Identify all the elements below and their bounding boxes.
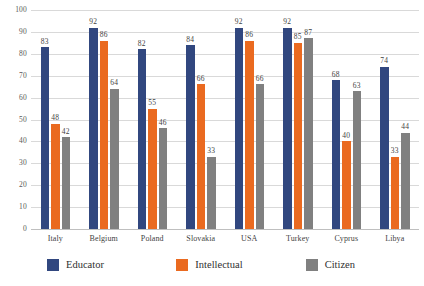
bar-column[interactable]: 92	[283, 10, 292, 229]
bar-column[interactable]: 46	[159, 10, 168, 229]
bar-column[interactable]: 85	[294, 10, 303, 229]
bar-value-label: 66	[197, 75, 205, 83]
bar-column[interactable]: 86	[245, 10, 254, 229]
bar-value-label: 86	[100, 31, 108, 39]
x-tick-label: Libya	[371, 231, 420, 247]
y-tick-label: 60	[19, 94, 27, 102]
bar-citizen[interactable]	[62, 137, 71, 229]
bar-value-label: 85	[294, 33, 302, 41]
bar-column[interactable]: 87	[304, 10, 313, 229]
bar-group: 684063	[322, 10, 371, 229]
bar-value-label: 40	[342, 132, 350, 140]
bar-citizen[interactable]	[353, 91, 362, 229]
bar-column[interactable]: 83	[41, 10, 50, 229]
bar-intellectual[interactable]	[100, 41, 109, 229]
bar-group-bars: 834842	[31, 10, 80, 229]
y-tick-label: 50	[19, 116, 27, 124]
bar-citizen[interactable]	[159, 128, 168, 229]
bar-column[interactable]: 55	[148, 10, 157, 229]
bar-column[interactable]: 42	[62, 10, 71, 229]
bar-column[interactable]: 84	[186, 10, 195, 229]
bar-educator[interactable]	[89, 28, 98, 229]
bar-column[interactable]: 66	[256, 10, 265, 229]
y-tick-label: 30	[19, 160, 27, 168]
bar-educator[interactable]	[283, 28, 292, 229]
bar-citizen[interactable]	[401, 133, 410, 229]
bar-column[interactable]: 33	[207, 10, 216, 229]
legend-swatch-icon	[47, 259, 59, 271]
bar-intellectual[interactable]	[294, 43, 303, 229]
bar-column[interactable]: 33	[391, 10, 400, 229]
y-tick-label: 20	[19, 181, 27, 189]
legend-item-citizen[interactable]: Citizen	[290, 259, 419, 271]
x-tick-label: USA	[225, 231, 274, 247]
y-tick-label: 40	[19, 138, 27, 146]
bar-value-label: 42	[62, 128, 70, 136]
bar-value-label: 84	[186, 36, 194, 44]
y-tick-label: 70	[19, 72, 27, 80]
bar-group: 834842	[31, 10, 80, 229]
x-tick-label: Slovakia	[177, 231, 226, 247]
bar-group: 928664	[80, 10, 129, 229]
bar-column[interactable]: 92	[89, 10, 98, 229]
y-axis: 1009080706050403020100	[0, 10, 27, 229]
x-tick-label: Poland	[128, 231, 177, 247]
bar-value-label: 92	[235, 18, 243, 26]
bar-value-label: 87	[304, 29, 312, 37]
bar-citizen[interactable]	[256, 84, 265, 229]
bar-group-bars: 684063	[322, 10, 371, 229]
bar-value-label: 74	[380, 57, 388, 65]
bar-value-label: 44	[401, 123, 409, 131]
bar-group: 846633	[177, 10, 226, 229]
legend-label: Citizen	[325, 260, 355, 271]
legend-item-educator[interactable]: Educator	[31, 259, 160, 271]
bar-intellectual[interactable]	[197, 84, 206, 229]
bar-column[interactable]: 44	[401, 10, 410, 229]
bar-group-bars: 928587	[274, 10, 323, 229]
bar-column[interactable]: 66	[197, 10, 206, 229]
bar-group-bars: 825546	[128, 10, 177, 229]
bar-educator[interactable]	[235, 28, 244, 229]
bar-column[interactable]: 48	[51, 10, 60, 229]
bar-column[interactable]: 63	[353, 10, 362, 229]
bar-citizen[interactable]	[110, 89, 119, 229]
bar-intellectual[interactable]	[245, 41, 254, 229]
bar-intellectual[interactable]	[51, 124, 60, 229]
bar-column[interactable]: 86	[100, 10, 109, 229]
y-tick-label: 100	[15, 6, 27, 14]
bar-column[interactable]: 40	[342, 10, 351, 229]
bar-intellectual[interactable]	[342, 141, 351, 229]
bar-column[interactable]: 68	[332, 10, 341, 229]
bar-group-bars: 743344	[371, 10, 420, 229]
y-tick-label: 0	[23, 225, 27, 233]
bar-column[interactable]: 82	[138, 10, 147, 229]
bar-groups: 8348429286648255468466339286669285876840…	[31, 10, 419, 229]
bar-value-label: 48	[51, 114, 59, 122]
bar-column[interactable]: 92	[235, 10, 244, 229]
legend-swatch-icon	[306, 259, 318, 271]
bar-educator[interactable]	[332, 80, 341, 229]
bar-column[interactable]: 74	[380, 10, 389, 229]
bar-educator[interactable]	[138, 49, 147, 229]
bar-intellectual[interactable]	[148, 109, 157, 229]
bar-column[interactable]: 64	[110, 10, 119, 229]
bar-educator[interactable]	[380, 67, 389, 229]
bar-educator[interactable]	[186, 45, 195, 229]
bar-value-label: 46	[159, 119, 167, 127]
x-tick-label: Turkey	[274, 231, 323, 247]
bar-citizen[interactable]	[304, 38, 313, 229]
bar-value-label: 86	[245, 31, 253, 39]
legend-label: Educator	[66, 260, 104, 271]
y-tick-label: 80	[19, 50, 27, 58]
bar-value-label: 64	[110, 79, 118, 87]
bar-value-label: 68	[332, 71, 340, 79]
bar-value-label: 63	[353, 82, 361, 90]
bar-value-label: 33	[207, 147, 215, 155]
bar-citizen[interactable]	[207, 157, 216, 229]
bar-value-label: 55	[148, 99, 156, 107]
bar-educator[interactable]	[41, 47, 50, 229]
bar-group: 825546	[128, 10, 177, 229]
bar-value-label: 82	[138, 40, 146, 48]
bar-intellectual[interactable]	[391, 157, 400, 229]
legend-item-intellectual[interactable]: Intellectual	[160, 259, 289, 271]
